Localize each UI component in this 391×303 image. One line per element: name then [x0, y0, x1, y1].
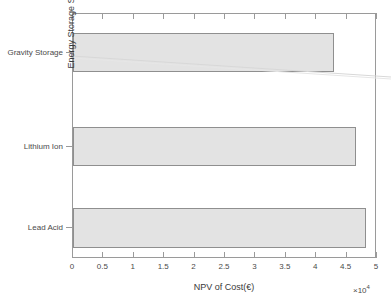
x-tick-label: 3.5: [279, 262, 290, 271]
x-tick-mark-top: [315, 13, 316, 19]
x-tick-mark-top: [254, 13, 255, 19]
x-tick-label: 3: [252, 262, 256, 271]
x-tick-label: 5: [374, 262, 378, 271]
x-tick-mark-top: [194, 13, 195, 19]
x-tick-mark-top: [133, 13, 134, 19]
x-tick-mark: [346, 252, 347, 258]
x-tick-mark: [133, 252, 134, 258]
x-tick-mark: [315, 252, 316, 258]
x-tick-mark: [194, 252, 195, 258]
x-axis-exponent-multiplier: ×104: [353, 284, 370, 295]
bar-chart-figure: 00.511.522.533.544.55 Gravity StorageLit…: [0, 0, 391, 303]
x-tick-label: 2: [191, 262, 195, 271]
x-tick-mark: [285, 252, 286, 258]
x-tick-mark-top: [376, 13, 377, 19]
y-axis-title: Energy Storage System: [65, 0, 77, 144]
x-tick-label: 0.5: [97, 262, 108, 271]
x-tick-label: 4.5: [340, 262, 351, 271]
bar-gravity-storage: [73, 33, 334, 72]
x-tick-label: 0: [70, 262, 74, 271]
x-tick-mark: [163, 252, 164, 258]
y-tick-label-lead-acid: Lead Acid: [28, 223, 63, 232]
y-tick-label-lithium-ion: Lithium Ion: [24, 141, 63, 150]
x-tick-label: 1: [131, 262, 135, 271]
bar-lead-acid: [73, 208, 366, 248]
x-tick-mark: [224, 252, 225, 258]
bar-lithium-ion: [73, 127, 356, 166]
x-tick-mark: [376, 252, 377, 258]
x-tick-mark-top: [285, 13, 286, 19]
x-tick-mark-top: [224, 13, 225, 19]
x-tick-mark: [254, 252, 255, 258]
x-tick-label: 2.5: [218, 262, 229, 271]
x-axis-title: NPV of Cost(€): [72, 282, 376, 292]
x-tick-mark-top: [102, 13, 103, 19]
exponent-power: 4: [367, 284, 370, 290]
x-tick-label: 4: [313, 262, 317, 271]
exponent-base: 10: [358, 286, 367, 295]
x-tick-mark: [102, 252, 103, 258]
y-tick-mark: [66, 227, 72, 228]
y-tick-label-gravity-storage: Gravity Storage: [7, 47, 63, 56]
plot-area: [72, 13, 376, 258]
x-tick-mark-top: [163, 13, 164, 19]
x-tick-mark-top: [346, 13, 347, 19]
x-tick-label: 1.5: [158, 262, 169, 271]
x-tick-mark: [72, 252, 73, 258]
y-tick-mark: [66, 146, 72, 147]
